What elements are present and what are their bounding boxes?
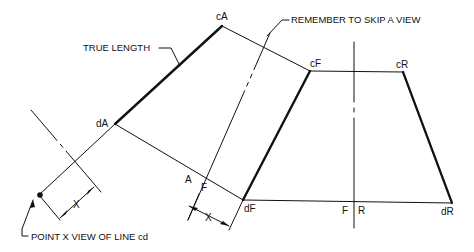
line-cR-dR	[403, 72, 452, 203]
label-fold-F2: F	[342, 205, 348, 216]
label-cA: cA	[216, 11, 228, 22]
label-dR: dR	[441, 206, 454, 217]
point-view-dot	[37, 192, 43, 198]
label-dF: dF	[244, 203, 256, 214]
projector-cF-cA	[222, 26, 310, 71]
label-fold-F1: F	[201, 182, 207, 193]
leader-true-length	[159, 48, 180, 66]
line-cF-cR	[310, 71, 403, 72]
label-dim-x-left: X	[73, 199, 80, 210]
line-cA-dA-true-length	[115, 26, 222, 124]
label-dA: dA	[96, 118, 109, 129]
label-dim-x-right: X	[205, 212, 212, 223]
label-cF: cF	[310, 58, 321, 69]
dim-ext-right-2	[229, 200, 243, 230]
diagram-canvas: cA dA cF cR dF dR A F F R X X TRUE LENGT…	[0, 0, 474, 252]
label-fold-A: A	[185, 174, 192, 185]
note-skip-view: REMEMBER TO SKIP A VIEW	[291, 14, 420, 25]
line-cF-dF	[243, 71, 310, 200]
note-true-length: TRUE LENGTH	[83, 42, 150, 53]
arrow-left-2	[87, 187, 94, 195]
label-cR: cR	[396, 59, 408, 70]
fold-line-A-1	[31, 110, 101, 192]
leader-skip-view	[267, 20, 289, 36]
line-dF-dR	[243, 200, 452, 203]
label-fold-R: R	[358, 205, 365, 216]
projector-dA-point	[39, 124, 115, 195]
note-point-view: POINT X VIEW OF LINE cd	[31, 231, 148, 242]
arrow-left-1	[60, 210, 67, 218]
dim-ext-left-1	[39, 195, 60, 220]
projector-dF-dA	[115, 124, 243, 200]
